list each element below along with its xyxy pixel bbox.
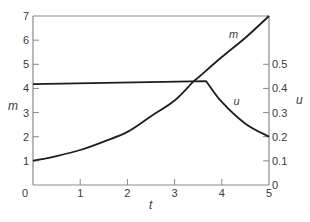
y-tick-label: 4 bbox=[23, 82, 29, 94]
y2-tick-label: 0.5 bbox=[272, 58, 287, 70]
y-tick-label: 7 bbox=[23, 10, 29, 22]
curve-label-u: u bbox=[234, 95, 240, 107]
x-tick-label: 3 bbox=[172, 187, 178, 199]
chart-container: 012345123456700.10.20.30.40.5 m u t m u bbox=[0, 0, 310, 222]
y-tick-label: 6 bbox=[23, 34, 29, 46]
tick-labels: 012345123456700.10.20.30.40.5 bbox=[22, 10, 287, 199]
y-tick-label: 3 bbox=[23, 107, 29, 119]
x-tick-label: 1 bbox=[77, 187, 83, 199]
y-tick-label: 2 bbox=[23, 131, 29, 143]
curve-u bbox=[33, 81, 269, 137]
y-tick-label: 1 bbox=[23, 155, 29, 167]
y2-tick-label: 0.1 bbox=[272, 155, 287, 167]
line-chart: 012345123456700.10.20.30.40.5 m u t m u bbox=[0, 0, 310, 222]
y2-tick-label: 0.3 bbox=[272, 107, 287, 119]
curve-label-m: m bbox=[229, 28, 238, 40]
y-axis-title-m: m bbox=[8, 99, 18, 113]
x-tick-label: 0 bbox=[22, 187, 28, 199]
y2-tick-label: 0.2 bbox=[272, 131, 287, 143]
y2-tick-label: 0.4 bbox=[272, 82, 287, 94]
axis-ticks bbox=[33, 40, 269, 185]
y2-axis-title-u: u bbox=[296, 93, 303, 107]
y-tick-label: 5 bbox=[23, 58, 29, 70]
x-axis-title-t: t bbox=[149, 198, 153, 212]
x-tick-label: 4 bbox=[219, 187, 225, 199]
x-tick-label: 2 bbox=[124, 187, 130, 199]
y2-tick-label: 0 bbox=[272, 179, 278, 191]
